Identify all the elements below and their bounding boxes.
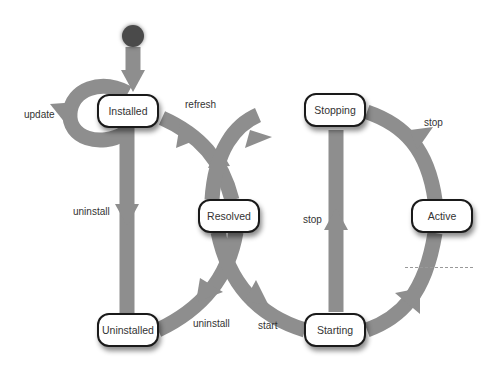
dashed-divider <box>405 267 473 268</box>
label-uninstall-resolved: uninstall <box>193 318 230 329</box>
state-active-label: Active <box>428 210 457 222</box>
arrowhead-stop-starting <box>324 208 348 230</box>
label-refresh: refresh <box>185 99 216 110</box>
label-update: update <box>24 109 55 120</box>
arrowhead-uninstall-installed <box>115 204 139 226</box>
state-starting[interactable]: Starting <box>304 313 366 347</box>
label-start: start <box>258 320 277 331</box>
state-stopping-label: Stopping <box>314 104 355 116</box>
label-stop-active: stop <box>424 117 443 128</box>
label-stop-starting: stop <box>303 214 322 225</box>
state-resolved[interactable]: Resolved <box>198 199 260 233</box>
state-uninstalled-label: Uninstalled <box>102 324 154 336</box>
state-resolved-label: Resolved <box>207 210 251 222</box>
diagram-edges <box>0 0 501 371</box>
state-uninstalled[interactable]: Uninstalled <box>97 313 159 347</box>
state-active[interactable]: Active <box>411 199 473 233</box>
state-stopping[interactable]: Stopping <box>304 93 366 127</box>
initial-state <box>122 25 144 47</box>
edge-starting-active <box>367 233 435 330</box>
state-installed-label: Installed <box>108 105 147 117</box>
state-starting-label: Starting <box>317 324 353 336</box>
label-uninstall-installed: uninstall <box>73 206 110 217</box>
arrowhead-stopping-resolved <box>245 130 272 148</box>
state-installed[interactable]: Installed <box>97 94 159 128</box>
